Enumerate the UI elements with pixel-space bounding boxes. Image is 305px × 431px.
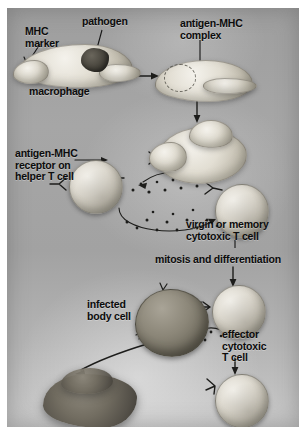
label-effector-cytotoxic: effector cytotoxic T cell: [222, 329, 266, 364]
label-antigen-mhc-complex: antigen-MHC complex: [180, 18, 243, 41]
destroyed-cell-fragment: [61, 368, 113, 394]
label-mitosis: mitosis and differentiation: [155, 254, 281, 266]
macrophage-pseudopod-left: [13, 60, 49, 84]
antigen-vesicle: [164, 64, 196, 92]
immune-response-figure: MHC marker pathogen antigen-MHC complex …: [0, 0, 305, 431]
effector-cytotoxic-t-cell: [215, 374, 269, 427]
pathogen-blob: [81, 48, 109, 72]
label-infected-body-cell: infected body cell: [87, 299, 131, 322]
label-virgin-memory-t-cell: virgin or memory cytotoxic T cell: [186, 219, 269, 242]
apc-lobe-top: [189, 120, 233, 148]
effector-t-receptor-icon: [206, 379, 215, 394]
label-macrophage: macrophage: [29, 86, 89, 98]
diagram-panel: MHC marker pathogen antigen-MHC complex …: [7, 8, 299, 427]
infected-body-cell: [135, 289, 209, 357]
virgin-t-receptor-icon: [205, 182, 222, 194]
label-antigen-mhc-receptor: antigen-MHC receptor on helper T cell: [15, 148, 78, 183]
label-mhc-marker: MHC marker: [25, 26, 59, 49]
apc-lobe-left: [149, 142, 187, 172]
arrow-mitosis: [230, 267, 237, 287]
label-pathogen: pathogen: [82, 16, 128, 28]
arrow-presenting-to-tcells: [194, 100, 201, 123]
